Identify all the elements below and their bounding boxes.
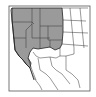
range-map bbox=[0, 0, 96, 97]
